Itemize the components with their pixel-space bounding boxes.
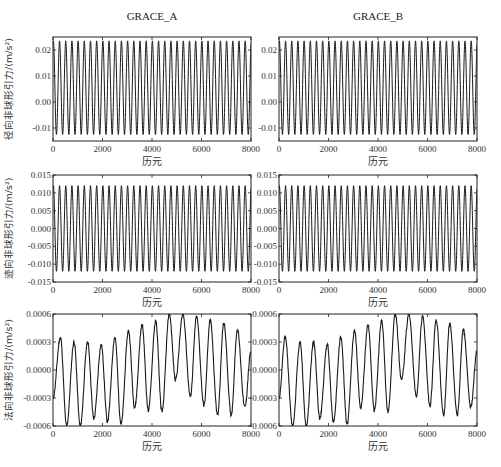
x-tick-label: 4000 <box>369 429 388 439</box>
y-tick-label: 0.02 <box>35 45 51 55</box>
x-tick-label: 4000 <box>143 285 162 295</box>
x-axis-label: 历元 <box>142 441 162 452</box>
y-tick-label: -0.01 <box>32 123 51 133</box>
series-line <box>53 186 251 272</box>
y-tick-label: 0.000 <box>257 224 278 234</box>
x-tick-label: 6000 <box>419 429 438 439</box>
series-line <box>53 314 251 426</box>
y-tick-label: 0.02 <box>261 45 277 55</box>
y-tick-label: -0.0003 <box>23 393 51 403</box>
x-tick-label: 0 <box>277 144 282 154</box>
x-tick-label: 6000 <box>193 429 212 439</box>
y-axis-label: 径向非球形引力/(m/s²) <box>3 38 14 140</box>
y-tick-label: 0.0003 <box>26 337 51 347</box>
y-tick-label: 0.0000 <box>26 365 51 375</box>
y-tick-label: -0.010 <box>28 259 52 269</box>
y-tick-label: 0.01 <box>35 71 51 81</box>
x-tick-label: 8000 <box>468 429 487 439</box>
y-tick-label: 0.0006 <box>252 309 277 319</box>
series-line <box>279 314 477 426</box>
y-tick-label: 0.00 <box>35 97 51 107</box>
x-tick-label: 8000 <box>242 144 261 154</box>
panel-radial_B: 02000400060008000-0.010.000.010.02历元 <box>258 37 486 167</box>
y-tick-label: -0.005 <box>28 241 52 251</box>
y-tick-label: -0.0006 <box>23 421 51 431</box>
y-tick-label: -0.010 <box>254 259 278 269</box>
panel-radial_A: 02000400060008000-0.010.000.010.02历元径向非球… <box>3 37 261 167</box>
y-tick-label: 0.005 <box>31 206 52 216</box>
y-tick-label: 0.00 <box>261 97 277 107</box>
series-line <box>53 41 251 135</box>
y-tick-label: 0.0000 <box>252 365 277 375</box>
x-tick-label: 2000 <box>320 144 339 154</box>
x-axis-label: 历元 <box>142 156 162 167</box>
y-tick-label: -0.015 <box>28 277 52 287</box>
x-tick-label: 0 <box>277 429 282 439</box>
x-tick-label: 6000 <box>419 285 438 295</box>
y-tick-label: 0.015 <box>257 170 278 180</box>
x-axis-label: 历元 <box>368 441 388 452</box>
x-axis-label: 历元 <box>368 156 388 167</box>
x-axis-label: 历元 <box>368 297 388 308</box>
y-tick-label: -0.015 <box>254 277 278 287</box>
panel-along_B: 02000400060008000-0.015-0.010-0.0050.000… <box>254 170 487 308</box>
y-tick-label: -0.0003 <box>249 393 277 403</box>
x-tick-label: 2000 <box>320 429 339 439</box>
x-axis-label: 历元 <box>142 297 162 308</box>
y-axis-label: 迹向非球形引力/(m/s²) <box>3 178 14 280</box>
x-tick-label: 0 <box>51 429 56 439</box>
y-tick-label: 0.0003 <box>252 337 277 347</box>
x-tick-label: 2000 <box>320 285 339 295</box>
y-tick-label: 0.010 <box>31 188 52 198</box>
x-tick-label: 0 <box>51 144 56 154</box>
x-tick-label: 6000 <box>419 144 438 154</box>
x-tick-label: 8000 <box>468 144 487 154</box>
y-tick-label: 0.01 <box>261 71 277 81</box>
y-tick-label: 0.0006 <box>26 309 51 319</box>
y-tick-label: 0.000 <box>31 224 52 234</box>
y-axis-label: 法向非球形引力/(m/s²) <box>3 319 14 421</box>
y-tick-label: 0.010 <box>257 188 278 198</box>
y-tick-label: -0.005 <box>254 241 278 251</box>
chart-grid: 02000400060008000-0.010.000.010.02历元径向非球… <box>0 0 501 467</box>
y-tick-label: 0.015 <box>31 170 52 180</box>
x-tick-label: 4000 <box>369 144 388 154</box>
y-tick-label: -0.01 <box>258 123 277 133</box>
x-tick-label: 6000 <box>193 285 212 295</box>
panel-along_A: 02000400060008000-0.015-0.010-0.0050.000… <box>3 170 261 308</box>
series-line <box>279 186 477 272</box>
x-tick-label: 0 <box>277 285 282 295</box>
x-tick-label: 4000 <box>143 144 162 154</box>
x-tick-label: 4000 <box>369 285 388 295</box>
x-tick-label: 2000 <box>94 285 113 295</box>
x-tick-label: 8000 <box>468 285 487 295</box>
series-line <box>279 41 477 135</box>
x-tick-label: 2000 <box>94 429 113 439</box>
x-tick-label: 0 <box>51 285 56 295</box>
y-tick-label: -0.0006 <box>249 421 277 431</box>
x-tick-label: 2000 <box>94 144 113 154</box>
y-tick-label: 0.005 <box>257 206 278 216</box>
x-tick-label: 6000 <box>193 144 212 154</box>
panel-normal_B: 02000400060008000-0.0006-0.00030.00000.0… <box>249 309 486 452</box>
x-tick-label: 4000 <box>143 429 162 439</box>
panel-normal_A: 02000400060008000-0.0006-0.00030.00000.0… <box>3 309 261 452</box>
